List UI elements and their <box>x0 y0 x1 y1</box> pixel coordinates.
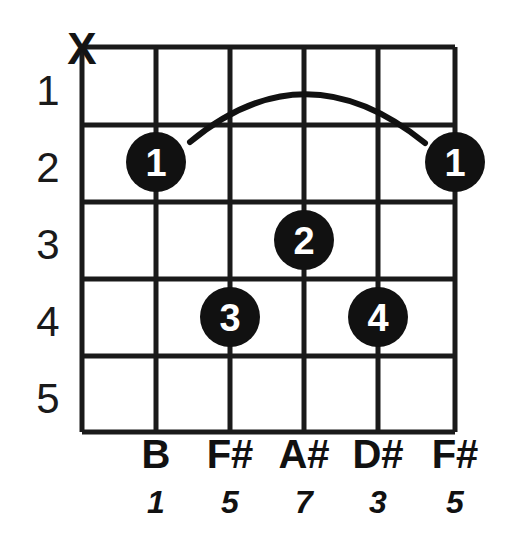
finger-dot[interactable]: 1 <box>126 132 186 192</box>
note-name-string-2: B <box>142 432 171 476</box>
fret-number-labels: 1 2 3 4 5 <box>36 67 59 422</box>
fret-number-1: 1 <box>36 67 59 114</box>
barre-arc-group <box>190 94 425 143</box>
interval-string-6: 5 <box>446 484 465 520</box>
chord-diagram-canvas: X 1 2 3 4 5 1 1 2 <box>0 0 511 550</box>
note-name-string-6: F# <box>432 432 479 476</box>
note-name-string-3: F# <box>207 432 254 476</box>
finger-dot-label: 1 <box>145 142 166 184</box>
barre-arc <box>190 94 425 143</box>
muted-string-marker-group: X <box>67 24 96 73</box>
note-name-labels: B F# A# D# F# <box>142 432 479 476</box>
fret-number-2: 2 <box>36 144 59 191</box>
interval-labels: 1 5 7 3 5 <box>147 484 465 520</box>
fret-number-3: 3 <box>36 221 59 268</box>
interval-string-3: 5 <box>221 484 240 520</box>
muted-string-x-icon: X <box>67 24 96 73</box>
interval-string-4: 7 <box>295 484 315 520</box>
finger-dot[interactable]: 2 <box>274 210 334 270</box>
interval-string-5: 3 <box>369 484 387 520</box>
finger-dot[interactable]: 3 <box>200 287 260 347</box>
finger-dot-label: 1 <box>444 142 465 184</box>
note-name-string-5: D# <box>352 432 403 476</box>
string-lines <box>82 47 455 432</box>
finger-dot-label: 3 <box>219 297 240 339</box>
fret-number-4: 4 <box>36 298 59 345</box>
chord-diagram: X 1 2 3 4 5 1 1 2 <box>0 0 511 550</box>
finger-dot[interactable]: 1 <box>425 132 485 192</box>
interval-string-2: 1 <box>147 484 165 520</box>
finger-dot-label: 4 <box>367 297 388 339</box>
note-name-string-4: A# <box>278 432 329 476</box>
finger-dot-label: 2 <box>293 220 314 262</box>
finger-dot[interactable]: 4 <box>348 287 408 347</box>
fret-number-5: 5 <box>36 375 59 422</box>
fret-lines <box>82 47 455 432</box>
